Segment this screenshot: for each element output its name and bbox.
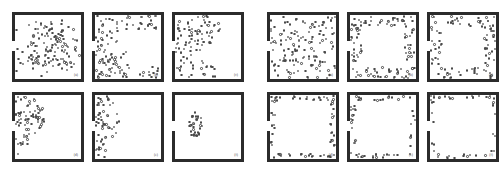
particle-marker — [434, 21, 436, 23]
particle-marker — [494, 48, 496, 50]
particle-marker — [386, 23, 388, 25]
particle-marker — [97, 40, 99, 42]
particle-marker — [59, 40, 61, 42]
particle-marker — [184, 44, 186, 46]
particle-marker — [304, 155, 306, 157]
particle-marker — [274, 69, 276, 71]
particle-marker — [191, 28, 193, 30]
particle-marker — [189, 41, 191, 43]
particle-marker — [55, 38, 57, 40]
particle-marker — [485, 54, 487, 56]
particle-marker — [298, 45, 300, 47]
particle-field — [350, 15, 417, 80]
particle-marker — [494, 40, 496, 42]
particle-marker — [37, 112, 39, 114]
particle-marker — [376, 71, 378, 73]
particle-marker — [69, 61, 71, 63]
particle-marker — [356, 36, 358, 38]
particle-marker — [37, 121, 39, 123]
simulation-panel: (c) — [169, 9, 247, 85]
particle-marker — [107, 126, 109, 128]
particle-marker — [304, 22, 306, 24]
particle-marker — [202, 41, 204, 43]
particle-marker — [142, 71, 144, 73]
particle-field — [95, 95, 162, 160]
particle-marker — [364, 20, 366, 22]
particle-marker — [460, 16, 462, 18]
particle-marker — [210, 65, 212, 67]
particle-marker — [453, 157, 455, 159]
particle-marker — [380, 19, 382, 21]
particle-marker — [190, 38, 192, 40]
particle-marker — [359, 74, 361, 76]
particle-marker — [29, 111, 31, 113]
particle-marker — [36, 52, 38, 54]
particle-marker — [390, 24, 392, 26]
particle-marker — [432, 59, 434, 61]
particle-marker — [180, 52, 182, 54]
particle-marker — [444, 95, 446, 97]
particle-marker — [111, 56, 113, 58]
particle-marker — [372, 155, 374, 157]
particle-marker — [214, 75, 216, 77]
wall-segment-bottom — [347, 79, 419, 82]
particle-marker — [30, 123, 32, 125]
particle-field — [95, 15, 162, 80]
particle-marker — [21, 51, 23, 53]
particle-marker — [125, 51, 127, 53]
particle-marker — [32, 34, 34, 36]
particle-marker — [407, 55, 409, 57]
particle-marker — [487, 44, 489, 46]
particle-marker — [352, 108, 354, 110]
particle-marker — [104, 49, 106, 51]
particle-marker — [492, 36, 494, 38]
particle-marker — [27, 128, 29, 130]
particle-marker — [56, 59, 58, 61]
particle-marker — [315, 67, 317, 69]
particle-marker — [178, 47, 180, 49]
particle-marker — [354, 109, 356, 111]
particle-marker — [490, 150, 492, 152]
particle-marker — [390, 70, 392, 72]
wall-segment-right — [416, 92, 419, 162]
particle-marker — [97, 76, 99, 78]
particle-marker — [103, 156, 105, 158]
particle-marker — [370, 20, 372, 22]
particle-marker — [277, 74, 279, 76]
particle-marker — [190, 54, 192, 56]
particle-marker — [387, 20, 389, 22]
particle-marker — [493, 16, 495, 18]
particle-marker — [431, 40, 433, 42]
particle-marker — [72, 28, 74, 30]
particle-marker — [98, 48, 100, 50]
particle-marker — [201, 44, 203, 46]
simulation-panel: (f) — [424, 89, 500, 165]
particle-marker — [329, 141, 331, 143]
particle-marker — [437, 73, 439, 75]
particle-marker — [324, 61, 326, 63]
panel-label: (b) — [154, 74, 158, 77]
particle-marker — [183, 48, 185, 50]
particle-marker — [408, 47, 410, 49]
particle-marker — [34, 110, 36, 112]
particle-marker — [183, 28, 185, 30]
particle-marker — [120, 56, 122, 58]
particle-marker — [302, 36, 304, 38]
particle-marker — [409, 44, 411, 46]
particle-marker — [289, 23, 291, 25]
particle-marker — [51, 32, 53, 34]
particle-marker — [44, 63, 46, 65]
particle-marker — [355, 154, 357, 156]
particle-marker — [126, 17, 128, 19]
panel-label: (d) — [329, 154, 333, 157]
particle-marker — [488, 57, 490, 59]
room-enclosure: (b) — [92, 12, 164, 82]
particle-marker — [106, 34, 108, 36]
particle-marker — [186, 57, 188, 59]
particle-marker — [486, 34, 488, 36]
particle-marker — [375, 156, 377, 158]
particle-marker — [451, 20, 453, 22]
particle-marker — [463, 153, 465, 155]
particle-marker — [150, 19, 152, 21]
particle-marker — [331, 116, 333, 118]
